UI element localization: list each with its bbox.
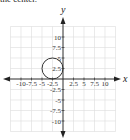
x-axis-label: x <box>122 73 128 84</box>
x-tick-label: 5 <box>82 80 86 88</box>
y-tick-label: 10 <box>54 34 62 42</box>
x-tick-label: -5 <box>39 80 45 88</box>
y-axis-label: y <box>60 4 66 15</box>
y-tick-label: 7.5 <box>52 44 61 52</box>
x-tick-label: 2.5 <box>69 80 78 88</box>
x-axis-left-arrow-icon <box>3 77 10 82</box>
y-axis-down-arrow-icon <box>61 131 66 138</box>
y-tick-label: -2.5 <box>50 86 62 94</box>
x-tick-label: 10 <box>102 80 110 88</box>
y-tick-label: -5 <box>55 97 61 105</box>
y-tick-label: -10 <box>52 118 62 126</box>
y-tick-label: -7.5 <box>50 107 62 115</box>
x-axis-right-arrow-icon <box>114 77 121 82</box>
coordinate-plane: x y -10-7.5-5-2.52.557.510107.552.5-2.5-… <box>0 0 130 140</box>
x-tick-label: -10 <box>16 80 26 88</box>
y-tick-label: 2.5 <box>52 65 61 73</box>
x-tick-label: -7.5 <box>26 80 38 88</box>
x-tick-label: 7.5 <box>90 80 99 88</box>
y-axis-up-arrow-icon <box>61 17 66 24</box>
